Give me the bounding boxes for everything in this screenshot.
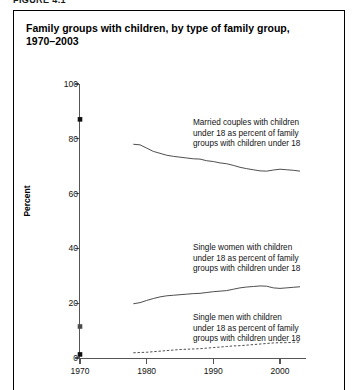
data-marker-1970-1: [78, 324, 83, 329]
figure-container: FIGURE 4.1 Family groups with children, …: [0, 0, 352, 390]
annotation-married-couples: Married couples with children under 18 a…: [193, 118, 343, 150]
annotation-single-men: Single men with children under 18 as per…: [193, 313, 345, 345]
series-line-1: [133, 286, 300, 304]
data-markers: [78, 117, 83, 357]
data-marker-1970-0: [78, 117, 83, 122]
data-marker-1970-2: [78, 352, 83, 357]
annotation-single-women: Single women with children under 18 as p…: [193, 243, 343, 275]
plot-area: Percent 020406080100 1970198019902000 Ma…: [0, 0, 352, 390]
